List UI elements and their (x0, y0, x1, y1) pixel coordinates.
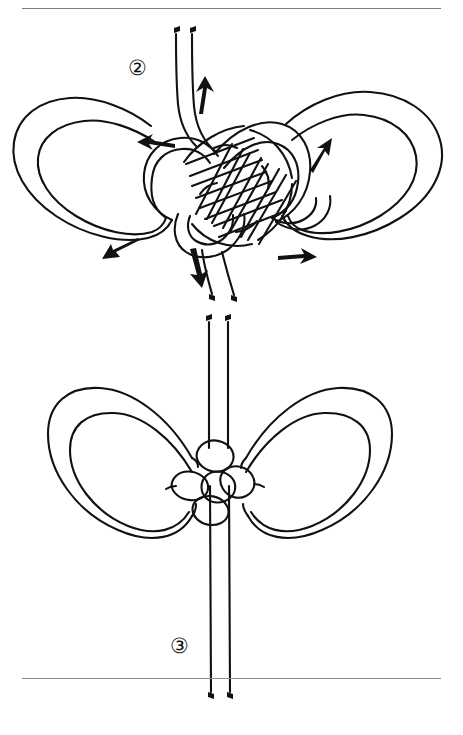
knot-center-pill-right (220, 466, 254, 498)
left-loop (13, 98, 172, 240)
top-horizontal-rule (22, 8, 441, 9)
knot-weave-band-a4 (214, 200, 286, 237)
tick-top-left-3 (206, 314, 212, 321)
right-loop-finished (246, 388, 392, 538)
page-header-text (0, 0, 463, 3)
knot-outer-bight-left (144, 138, 218, 220)
knot-outer-bight-lower (175, 214, 245, 257)
arrow-right-loop (310, 138, 332, 173)
figure-step-3: ③ (0, 300, 463, 720)
tick-bottom-right-3 (227, 692, 233, 699)
cord-end-bottom-right (222, 252, 234, 295)
bottom-horizontal-rule (22, 678, 441, 679)
arrow-left-lower (102, 238, 140, 259)
tick-top-right-3 (225, 314, 231, 321)
page-canvas: ② (0, 0, 463, 735)
tick-top-left (174, 26, 180, 33)
step-number-2: ② (128, 58, 147, 79)
tick-bottom-left-3 (208, 692, 214, 699)
figure-step-2: ② (0, 18, 463, 303)
arrow-up-top-center (196, 76, 214, 114)
step-number-3: ③ (170, 636, 189, 657)
vertical-cord-left (209, 322, 211, 692)
left-loop-finished (48, 388, 192, 538)
arrow-right-lower (278, 248, 317, 264)
tick-top-right (190, 26, 196, 33)
